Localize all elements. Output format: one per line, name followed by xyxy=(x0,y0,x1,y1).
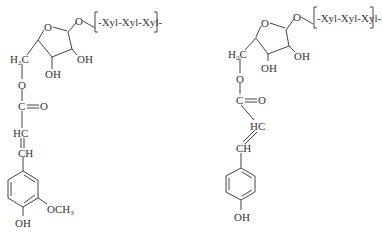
ring-oxygen: O xyxy=(261,17,269,29)
structure-1: O O -Xyl-Xyl-Xyl- H2C OH OH O C O HC CH … xyxy=(8,12,162,229)
xylose-chain: -Xyl-Xyl-Xyl- xyxy=(317,12,381,24)
chemical-diagram: O O -Xyl-Xyl-Xyl- H2C OH OH O C O HC CH … xyxy=(0,0,383,234)
carbonyl-carbon: C xyxy=(236,94,243,106)
methylene-label: H2C xyxy=(10,53,29,67)
c3-hydroxyl: OH xyxy=(45,68,61,80)
c3-hydroxyl: OH xyxy=(261,62,277,74)
phenol-hydroxyl: OH xyxy=(15,217,31,229)
ring-oxygen: O xyxy=(44,21,52,33)
xylose-chain: -Xyl-Xyl-Xyl- xyxy=(98,16,162,28)
alkene-ch: CH xyxy=(18,147,33,159)
carbonyl-carbon: C xyxy=(18,100,25,112)
carbonyl-oxygen: O xyxy=(40,100,48,112)
alkene-hc: HC xyxy=(250,120,265,132)
ester-oxygen: O xyxy=(236,73,244,85)
methoxy-group: OCH3 xyxy=(47,203,74,217)
glycosidic-oxygen: O xyxy=(293,11,301,23)
alkene-ch: CH xyxy=(236,142,251,154)
phenol-hydroxyl: OH xyxy=(234,211,250,223)
c2-hydroxyl: OH xyxy=(77,53,93,65)
alkene-hc: HC xyxy=(13,127,28,139)
methylene-label: H2C xyxy=(228,48,247,62)
structure-2: O O -Xyl-Xyl-Xyl- H2C OH OH O C O HC CH … xyxy=(226,7,381,223)
c2-hydroxyl: OH xyxy=(294,50,310,62)
ester-oxygen: O xyxy=(18,79,26,91)
carbonyl-oxygen: O xyxy=(258,94,266,106)
glycosidic-oxygen: O xyxy=(75,15,83,27)
